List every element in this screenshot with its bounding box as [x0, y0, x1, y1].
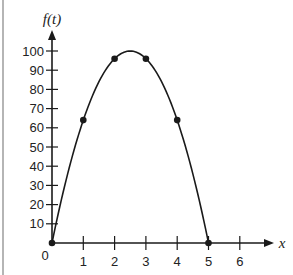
- y-tick-label: 40: [30, 159, 44, 174]
- x-tick-label: 6: [236, 254, 243, 269]
- y-tick-label: 80: [30, 82, 44, 97]
- y-tick-label: 70: [30, 101, 44, 116]
- x-axis-label: x: [278, 235, 286, 251]
- origin-label: 0: [41, 248, 48, 263]
- data-point-marker: [205, 240, 212, 247]
- y-axis-label: f(t): [43, 11, 61, 28]
- y-tick-label: 30: [30, 178, 44, 193]
- data-point-marker: [143, 55, 150, 62]
- x-tick-label: 3: [142, 254, 149, 269]
- function-curve: [52, 51, 209, 243]
- y-axis-arrow-icon: [48, 30, 56, 40]
- y-tick-label: 10: [30, 216, 44, 231]
- y-tick-label: 100: [22, 44, 44, 59]
- data-point-marker: [49, 240, 56, 247]
- x-tick-label: 5: [205, 254, 212, 269]
- data-point-marker: [111, 55, 118, 62]
- y-tick-label: 90: [30, 63, 44, 78]
- x-tick-label: 4: [174, 254, 181, 269]
- data-point-marker: [174, 117, 181, 124]
- y-tick-label: 60: [30, 120, 44, 135]
- data-point-marker: [80, 117, 87, 124]
- y-tick-label: 50: [30, 140, 44, 155]
- x-axis-arrow-icon: [264, 239, 274, 247]
- x-tick-label: 1: [80, 254, 87, 269]
- chart-plot: 1020304050607080901001234560f(t)x: [0, 0, 293, 275]
- y-tick-label: 20: [30, 197, 44, 212]
- x-tick-label: 2: [111, 254, 118, 269]
